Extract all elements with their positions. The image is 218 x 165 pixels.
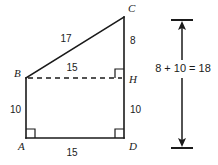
geometry-figure-canvas: B C H A D 17 8 10 15 10 15 8 + 10 = 18 [0, 0, 218, 165]
length-label-HD: 10 [130, 104, 142, 115]
right-angle-A-icon [26, 129, 35, 138]
vertex-label-B: B [14, 67, 21, 79]
measure-bracket-label: 8 + 10 = 18 [155, 62, 211, 74]
vertex-label-D: D [128, 140, 137, 152]
geometry-diagram: B C H A D 17 8 10 15 10 15 8 + 10 = 18 [0, 0, 218, 165]
right-angle-D-icon [115, 129, 124, 138]
length-label-BH: 15 [66, 62, 78, 73]
vertex-label-H: H [128, 73, 138, 85]
length-label-AB: 10 [10, 104, 22, 115]
length-label-CH: 8 [130, 35, 136, 46]
vertex-label-A: A [17, 140, 25, 152]
vertex-label-C: C [128, 2, 136, 14]
length-label-AD: 15 [66, 147, 78, 158]
length-label-BC: 17 [60, 33, 72, 44]
right-angle-H-icon [115, 69, 124, 78]
